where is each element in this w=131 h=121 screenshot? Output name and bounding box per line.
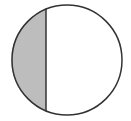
circle-segment-diagram — [0, 0, 131, 121]
shaded-segment — [11, 9, 46, 111]
